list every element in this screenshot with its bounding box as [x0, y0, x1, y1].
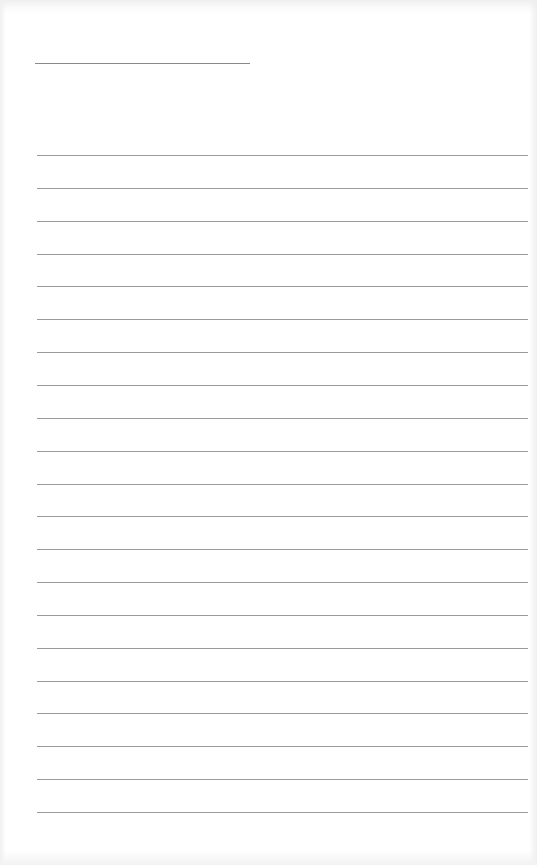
paper-edge-right [529, 0, 537, 865]
lined-paper-sheet [0, 0, 537, 865]
ruled-line [37, 549, 528, 550]
ruled-line [37, 254, 528, 255]
ruled-line [37, 582, 528, 583]
ruled-line [37, 155, 528, 156]
ruled-line [37, 681, 528, 682]
ruled-line [37, 713, 528, 714]
ruled-line [37, 484, 528, 485]
paper-edge-bottom [0, 851, 537, 865]
ruled-line [37, 812, 528, 813]
header-name-line [35, 63, 250, 64]
ruled-line [37, 779, 528, 780]
ruled-line [37, 221, 528, 222]
ruled-line [37, 385, 528, 386]
ruled-line [37, 648, 528, 649]
ruled-line [37, 418, 528, 419]
ruled-line [37, 451, 528, 452]
ruled-line [37, 516, 528, 517]
ruled-line [37, 352, 528, 353]
paper-edge-left [0, 0, 6, 865]
ruled-line [37, 615, 528, 616]
ruled-line [37, 286, 528, 287]
ruled-line [37, 746, 528, 747]
ruled-line [37, 188, 528, 189]
ruled-line [37, 319, 528, 320]
